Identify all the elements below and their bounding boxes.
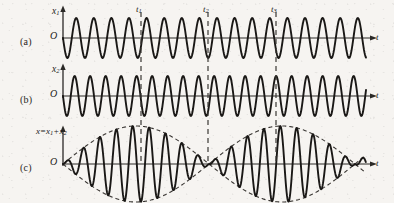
t-axis-label-a: t xyxy=(376,32,379,42)
panel-label-c: (c) xyxy=(20,162,32,173)
t-axis-label-b: t xyxy=(376,90,379,100)
origin-label-b: O xyxy=(50,88,57,99)
panel-label-a: (a) xyxy=(20,36,32,47)
origin-label-a: O xyxy=(50,30,57,41)
value-axis-arrow-a xyxy=(60,6,65,13)
origin-label-c: O xyxy=(50,156,57,167)
t-axis-label-c: t xyxy=(376,158,379,168)
panel-label-b: (b) xyxy=(20,94,32,105)
beat-envelope-upper xyxy=(63,126,365,164)
beats-figure xyxy=(0,0,394,203)
y-axis-label-sum: x=x1+x2 xyxy=(36,126,67,136)
value-axis-arrow-b xyxy=(60,64,65,71)
y-axis-label-x2: x2 xyxy=(52,64,59,74)
y-axis-label-x1: x1 xyxy=(52,6,59,16)
time-marker-label-t2: t2 xyxy=(203,4,209,14)
time-marker-label-t3: t3 xyxy=(271,4,277,14)
wave-diagram-svg xyxy=(0,0,394,203)
time-marker-label-t1: t1 xyxy=(136,4,142,14)
